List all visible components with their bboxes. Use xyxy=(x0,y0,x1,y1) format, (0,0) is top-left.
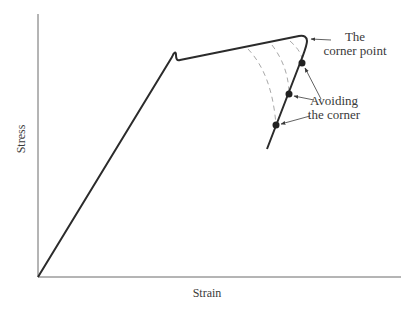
stress-strain-diagram: The corner point Avoiding the corner Str… xyxy=(0,0,418,310)
dashed-paths xyxy=(248,41,302,125)
corner-arrow xyxy=(311,39,331,40)
avoid-label-2: the corner xyxy=(308,107,361,122)
point-marker-3 xyxy=(273,122,280,129)
y-axis-label: Stress xyxy=(14,124,28,153)
point-marker-2 xyxy=(286,91,293,98)
point-marker-1 xyxy=(299,60,306,67)
avoid-label-1: Avoiding xyxy=(310,93,359,108)
corner-label-2: corner point xyxy=(323,43,387,58)
corner-label-1: The xyxy=(345,29,365,44)
avoid-arrow-3 xyxy=(281,116,310,124)
stress-strain-curve xyxy=(38,36,307,277)
x-axis-label: Strain xyxy=(193,286,222,300)
